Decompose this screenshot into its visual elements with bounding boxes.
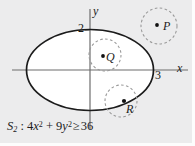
y-axis-label: y xyxy=(93,5,98,17)
relation-operator: ≥ xyxy=(72,119,81,133)
set-definition-label: S2 : 4x2 + 9y2≥36 xyxy=(7,119,93,134)
set-colon: : xyxy=(17,119,27,133)
math-figure-panel: y x 2 3 P Q R S2 : 4x2 + 9y2≥36 xyxy=(0,0,195,146)
point-label-r: R xyxy=(126,103,133,115)
plus-operator: + xyxy=(43,119,56,133)
point-dot-p xyxy=(155,23,159,27)
point-label-q: Q xyxy=(106,51,115,63)
point-label-p: P xyxy=(163,20,170,32)
x-tick-label-3: 3 xyxy=(155,69,161,81)
neighborhood-circle-p xyxy=(141,8,177,44)
right-hand-side: 36 xyxy=(81,119,94,133)
x-axis-label: x xyxy=(177,62,182,74)
y-tick-label-2: 2 xyxy=(78,22,84,34)
point-dot-q xyxy=(101,54,105,58)
